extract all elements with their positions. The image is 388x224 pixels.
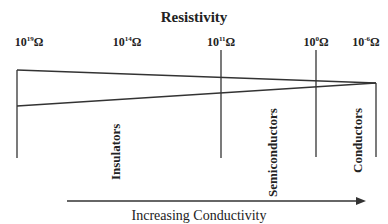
resistivity-scale-graphic xyxy=(0,0,388,224)
region-label-semiconductors: Semiconductors xyxy=(265,108,281,197)
wedge-bottom-edge xyxy=(17,83,376,106)
wedge-top-edge xyxy=(17,70,376,83)
conductivity-arrow-head xyxy=(356,197,366,205)
increasing-conductivity-label: Increasing Conductivity xyxy=(0,208,388,224)
region-label-insulators: Insulators xyxy=(108,124,124,180)
region-label-conductors: Conductors xyxy=(350,108,366,173)
